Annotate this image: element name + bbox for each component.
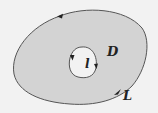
inner-curve-label: l bbox=[85, 58, 90, 70]
region-label: D bbox=[107, 45, 118, 58]
region-diagram: D l L bbox=[0, 0, 158, 113]
outer-curve-label: L bbox=[123, 89, 132, 102]
inner-arrow-left-icon bbox=[70, 55, 75, 61]
region-figure bbox=[0, 0, 158, 113]
